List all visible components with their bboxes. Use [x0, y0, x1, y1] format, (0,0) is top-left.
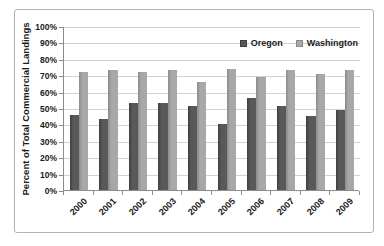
x-tick-mark: [300, 191, 301, 195]
y-tick-label-50%: 50%: [19, 104, 57, 114]
x-tick-mark: [122, 191, 123, 195]
x-axis-label-2001: 2001: [97, 196, 118, 217]
y-tick-mark-10%: [59, 175, 63, 176]
x-tick-mark: [211, 191, 212, 195]
x-tick-mark: [359, 191, 360, 195]
y-tick-mark-20%: [59, 158, 63, 159]
y-tick-mark-90%: [59, 43, 63, 44]
x-axis-label-2007: 2007: [275, 196, 296, 217]
x-axis-label-2002: 2002: [127, 196, 148, 217]
y-tick-label-70%: 70%: [19, 71, 57, 81]
x-axis-label-2006: 2006: [245, 196, 266, 217]
y-tick-mark-70%: [59, 76, 63, 77]
y-tick-label-30%: 30%: [19, 137, 57, 147]
y-tick-label-60%: 60%: [19, 88, 57, 98]
y-tick-label-80%: 80%: [19, 55, 57, 65]
x-tick-mark: [152, 191, 153, 195]
y-tick-mark-80%: [59, 60, 63, 61]
x-axis-label-2005: 2005: [216, 196, 237, 217]
x-tick-mark: [241, 191, 242, 195]
y-tick-mark-30%: [59, 142, 63, 143]
chart-frame: Percent of Total Commercial Landings Ore…: [14, 9, 374, 233]
x-tick-mark: [181, 191, 182, 195]
y-tick-mark-40%: [59, 125, 63, 126]
y-tick-mark-50%: [59, 109, 63, 110]
y-tick-label-20%: 20%: [19, 153, 57, 163]
y-tick-mark-60%: [59, 93, 63, 94]
x-tick-mark: [63, 191, 64, 195]
x-axis-label-2008: 2008: [304, 196, 325, 217]
y-tick-label-90%: 90%: [19, 38, 57, 48]
y-tick-label-0%: 0%: [19, 186, 57, 196]
x-tick-mark: [93, 191, 94, 195]
y-tick-label-100%: 100%: [19, 22, 57, 32]
x-axis-label-2000: 2000: [68, 196, 89, 217]
y-tick-mark-100%: [59, 27, 63, 28]
y-tick-label-10%: 10%: [19, 170, 57, 180]
x-axis-label-2003: 2003: [156, 196, 177, 217]
x-tick-mark: [329, 191, 330, 195]
x-axis-label-2004: 2004: [186, 196, 207, 217]
x-tick-mark: [270, 191, 271, 195]
y-tick-label-40%: 40%: [19, 120, 57, 130]
x-axis-label-2009: 2009: [334, 196, 355, 217]
axes-layer: 0%10%20%30%40%50%60%70%80%90%100%2000200…: [15, 10, 373, 232]
